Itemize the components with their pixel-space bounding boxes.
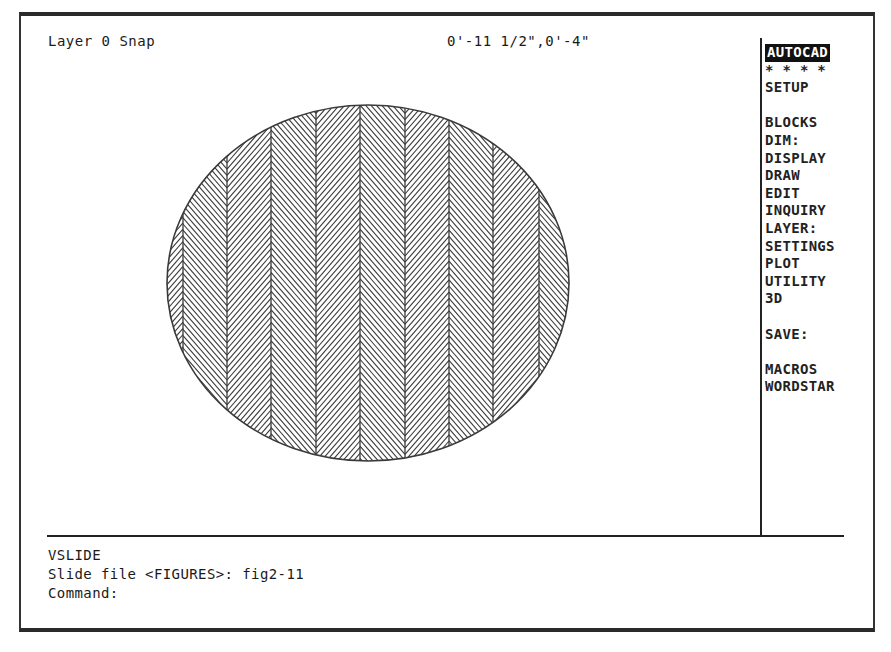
command-area-divider bbox=[47, 535, 844, 537]
command-history-line: Slide file <FIGURES>: fig2-11 bbox=[48, 565, 304, 584]
menu-utility[interactable]: UTILITY bbox=[765, 273, 875, 291]
menu-gap bbox=[765, 308, 875, 326]
screen-menu: AUTOCAD * * * * SETUP BLOCKS DIM: DISPLA… bbox=[765, 42, 875, 396]
menu-dim[interactable]: DIM: bbox=[765, 132, 875, 150]
cursor-coordinates: 0'-11 1/2",0'-4" bbox=[447, 33, 590, 49]
menu-gap bbox=[765, 97, 875, 115]
menu-separator-stars[interactable]: * * * * bbox=[765, 62, 875, 80]
menu-inquiry[interactable]: INQUIRY bbox=[765, 202, 875, 220]
menu-3d[interactable]: 3D bbox=[765, 290, 875, 308]
menu-autocad[interactable]: AUTOCAD bbox=[765, 42, 875, 62]
sidebar-divider bbox=[760, 38, 762, 536]
menu-edit[interactable]: EDIT bbox=[765, 185, 875, 203]
herringbone-hatch bbox=[165, 48, 571, 566]
layer-snap-status: Layer 0 Snap bbox=[48, 33, 155, 49]
command-area[interactable]: VSLIDE Slide file <FIGURES>: fig2-11 Com… bbox=[48, 546, 304, 603]
menu-gap bbox=[765, 343, 875, 361]
menu-draw[interactable]: DRAW bbox=[765, 167, 875, 185]
menu-wordstar[interactable]: WORDSTAR bbox=[765, 378, 875, 396]
command-prompt[interactable]: Command: bbox=[48, 584, 304, 603]
menu-plot[interactable]: PLOT bbox=[765, 255, 875, 273]
menu-save[interactable]: SAVE: bbox=[765, 326, 875, 344]
command-history-line: VSLIDE bbox=[48, 546, 304, 565]
menu-macros[interactable]: MACROS bbox=[765, 361, 875, 379]
menu-settings[interactable]: SETTINGS bbox=[765, 238, 875, 256]
menu-layer[interactable]: LAYER: bbox=[765, 220, 875, 238]
menu-display[interactable]: DISPLAY bbox=[765, 150, 875, 168]
menu-setup[interactable]: SETUP bbox=[765, 79, 875, 97]
menu-blocks[interactable]: BLOCKS bbox=[765, 114, 875, 132]
